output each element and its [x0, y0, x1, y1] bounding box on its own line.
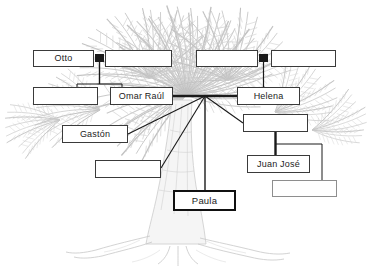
person-box-otto[interactable]: Otto	[33, 50, 94, 67]
person-box-unnamed-4[interactable]	[33, 87, 98, 105]
palm-tree-illustration	[0, 0, 372, 277]
person-box-helena[interactable]: Helena	[237, 87, 300, 105]
person-box-unnamed-5[interactable]	[243, 114, 308, 132]
person-box-unnamed-1[interactable]	[105, 50, 172, 67]
person-box-omar-raul[interactable]: Omar Raúl	[110, 87, 173, 105]
person-box-juan-jose[interactable]: Juan José	[247, 155, 310, 173]
marriage-bar-helena-parents	[259, 54, 268, 62]
connector-to-unnamed-sibling	[161, 96, 205, 168]
family-tree-diagram: Otto Omar Raúl Helena Gastón Juan José P…	[0, 0, 372, 277]
person-box-gaston[interactable]: Gastón	[62, 125, 128, 143]
person-box-paula[interactable]: Paula	[173, 190, 236, 211]
person-box-unnamed-6[interactable]	[95, 160, 161, 178]
person-box-unnamed-2[interactable]	[196, 50, 258, 67]
person-box-unnamed-3[interactable]	[271, 50, 336, 67]
person-box-unnamed-7[interactable]	[272, 180, 337, 197]
connector-lines	[0, 0, 372, 277]
marriage-bar-otto	[95, 54, 104, 62]
